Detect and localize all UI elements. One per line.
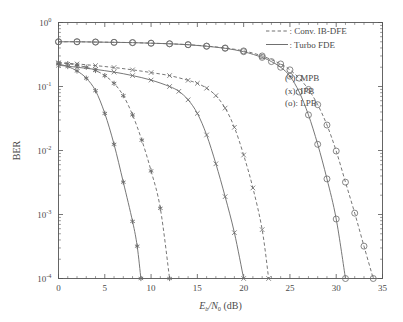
data-marker-x [214, 93, 219, 98]
data-marker-circle [287, 67, 293, 73]
data-marker-star [93, 88, 98, 93]
x-tick-label: 25 [285, 283, 295, 293]
series-line [59, 42, 374, 279]
y-tick-label: 10-1 [37, 80, 51, 92]
plot-frame [59, 23, 383, 279]
y-tick-label: 10-4 [37, 272, 52, 284]
x-tick-label: 10 [147, 283, 157, 293]
chart-canvas: 0510152025303510010-110-210-310-4BEREb/N… [0, 0, 403, 322]
data-marker-star [135, 244, 140, 249]
y-tick-label: 10-2 [37, 144, 51, 156]
data-marker-x [232, 125, 237, 130]
y-tick-label: 100 [39, 16, 51, 28]
x-tick-label: 0 [56, 283, 61, 293]
data-marker-x [186, 97, 191, 102]
data-marker-star [130, 219, 135, 224]
data-marker-star [158, 206, 163, 211]
data-marker-x [195, 111, 200, 116]
data-marker-x [167, 84, 172, 89]
data-marker-star [149, 168, 154, 173]
legend-line-label: : Turbo FDE [290, 40, 336, 50]
y-axis-title: BER [11, 140, 22, 160]
data-marker-star [130, 112, 135, 117]
series-line [59, 64, 141, 279]
x-tick-label: 35 [378, 283, 388, 293]
data-marker-x [177, 89, 182, 94]
legend-marker-label: (*): MPB [285, 73, 319, 83]
data-marker-star [103, 73, 108, 78]
y-tick-label: 10-3 [37, 208, 51, 220]
data-marker-star [103, 111, 108, 116]
data-marker-x [204, 86, 209, 91]
data-marker-x [204, 133, 209, 138]
data-marker-star [121, 180, 126, 185]
data-marker-star [112, 142, 117, 147]
legend-marker-label: (x): IPB [285, 86, 314, 96]
x-tick-label: 15 [193, 283, 203, 293]
x-tick-label: 5 [103, 283, 108, 293]
legend-line-label: : Conv. IB-DFE [290, 26, 348, 36]
data-marker-x [195, 81, 200, 86]
x-tick-label: 20 [239, 283, 249, 293]
legend-marker-label: (o): LPB [285, 98, 317, 108]
ber-performance-chart: 0510152025303510010-110-210-310-4BEREb/N… [0, 0, 403, 322]
data-marker-x [223, 106, 228, 111]
x-axis-title: Eb/N0 (dB) [198, 300, 242, 313]
x-tick-label: 30 [332, 283, 342, 293]
series-line [59, 63, 170, 279]
data-marker-star [140, 138, 145, 143]
data-marker-circle [342, 179, 348, 185]
